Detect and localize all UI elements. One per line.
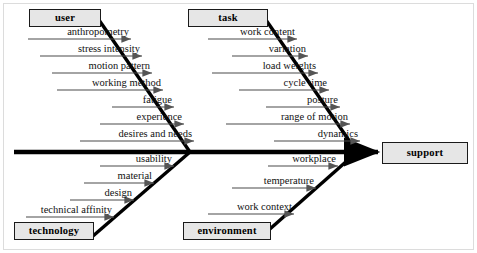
cause-label-task-4[interactable]: posture	[0, 95, 338, 106]
cause-label-task-2[interactable]: load weights	[0, 61, 316, 72]
category-box-technology[interactable]: technology	[14, 222, 94, 240]
category-label-user: user	[55, 13, 75, 24]
cause-label-technology-2[interactable]: design	[0, 188, 132, 199]
cause-label-environment-1[interactable]: temperature	[0, 176, 314, 187]
category-box-task[interactable]: task	[188, 9, 268, 27]
effect-label-support: support	[407, 148, 443, 159]
category-box-user[interactable]: user	[29, 9, 101, 27]
category-label-technology: technology	[29, 226, 79, 237]
category-label-task: task	[218, 13, 237, 24]
bone-environment	[262, 152, 357, 236]
fishbone-diagram: user task technology environment support…	[0, 0, 477, 253]
category-box-environment[interactable]: environment	[183, 222, 271, 240]
effect-box-support[interactable]: support	[382, 142, 468, 164]
category-label-environment: environment	[197, 226, 256, 237]
cause-label-task-6[interactable]: dynamics	[0, 129, 358, 140]
cause-label-task-3[interactable]: cycle time	[0, 78, 327, 89]
cause-label-environment-2[interactable]: work context	[0, 202, 292, 213]
cause-label-environment-0[interactable]: workplace	[0, 154, 336, 165]
cause-label-task-0[interactable]: work content	[0, 27, 295, 38]
cause-label-task-1[interactable]: variation	[0, 44, 306, 55]
cause-label-task-5[interactable]: range of motion	[0, 112, 348, 123]
